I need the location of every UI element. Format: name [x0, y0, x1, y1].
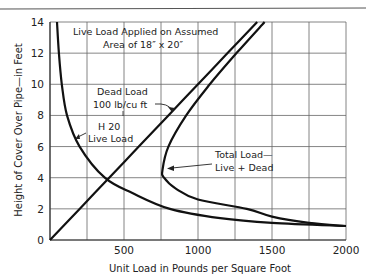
series-dead-load [50, 22, 257, 240]
chart: 02468101214500100015002000 Live Load App… [0, 0, 366, 279]
label-dead-load-line1: Dead Load [97, 86, 148, 97]
label-total-load-line1: Total Load— [214, 149, 273, 160]
note-live-load-line2: Area of 18″ x 20″ [103, 39, 183, 50]
label-dead-load-line2: 100 lb/cu ft [93, 99, 147, 110]
x-tick-label: 500 [114, 244, 134, 256]
y-axis-title: Height of Cover Over Pipe—in Feet [13, 43, 24, 217]
x-tick-label: 2000 [333, 244, 360, 256]
total-load-arrowhead-icon [167, 166, 174, 172]
top-rule [0, 8, 366, 9]
annotations: Live Load Applied on Assumed Area of 18″… [73, 26, 273, 173]
x-axis-title: Unit Load in Pounds per Square Foot [109, 263, 291, 274]
grid [50, 22, 346, 240]
y-tick-label: 14 [31, 16, 45, 28]
label-total-load-line2: Live + Dead [215, 162, 273, 173]
y-tick-label: 8 [37, 109, 44, 121]
y-tick-label: 4 [37, 172, 44, 184]
x-tick-label: 1000 [185, 244, 212, 256]
x-tick-label: 1500 [259, 244, 286, 256]
y-tick-label: 6 [37, 141, 44, 153]
y-tick-label: 10 [31, 78, 44, 90]
dead-load-leader-arrow [155, 104, 172, 110]
label-h20-line1: H 20 [98, 121, 120, 132]
h20-arrowhead-icon [75, 134, 80, 139]
y-tick-label: 0 [37, 234, 44, 246]
label-h20-line2: Live Load [88, 133, 133, 144]
note-live-load-line1: Live Load Applied on Assumed [73, 26, 218, 37]
total-load-leader-arrow [172, 164, 212, 168]
series-total-load [162, 22, 346, 226]
y-tick-label: 12 [31, 47, 44, 59]
y-tick-label: 2 [37, 203, 44, 215]
